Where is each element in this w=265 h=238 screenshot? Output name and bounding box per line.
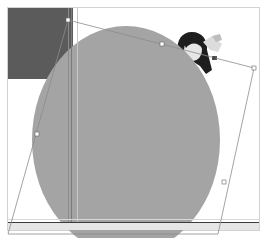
reference-point-icon[interactable] (212, 56, 215, 59)
handle-right-mid[interactable] (222, 180, 226, 184)
bottom-band (8, 223, 259, 230)
editor-canvas[interactable]: Distort transform bounding box (0, 0, 265, 238)
handle-top-mid[interactable] (160, 42, 164, 46)
handle-top-left[interactable] (66, 18, 70, 22)
handle-left-mid[interactable] (35, 132, 39, 136)
handle-top-right[interactable] (252, 66, 256, 70)
